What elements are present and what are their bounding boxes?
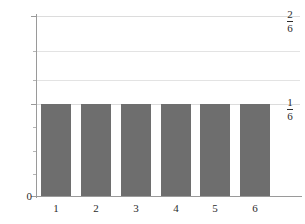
fraction-numerator: 1 — [285, 97, 295, 108]
bar-1[interactable] — [41, 104, 71, 196]
x-axis-label-5: 5 — [200, 203, 230, 214]
bar-chart: 2 6 1 6 0 1 2 3 4 5 6 — [0, 0, 305, 224]
bar-6[interactable] — [240, 104, 270, 196]
y-axis-label-0: 0 — [18, 191, 32, 202]
fraction-denominator: 6 — [285, 23, 295, 34]
x-axis-label-1: 1 — [41, 203, 71, 214]
bar-5[interactable] — [200, 104, 230, 196]
x-axis-label-2: 2 — [81, 203, 111, 214]
fraction-2-6: 2 6 — [285, 9, 295, 34]
fraction-1-6: 1 6 — [285, 97, 295, 122]
bar-2[interactable] — [81, 104, 111, 196]
fraction-numerator: 2 — [285, 9, 295, 20]
bars-layer — [0, 0, 305, 224]
bar-3[interactable] — [121, 104, 151, 196]
y-axis-label-1-6: 1 6 — [275, 97, 305, 122]
fraction-denominator: 6 — [285, 111, 295, 122]
x-axis-label-3: 3 — [121, 203, 151, 214]
y-axis-label-2-6: 2 6 — [275, 9, 305, 34]
bar-4[interactable] — [161, 104, 191, 196]
x-axis-label-4: 4 — [161, 203, 191, 214]
x-axis-label-6: 6 — [240, 203, 270, 214]
